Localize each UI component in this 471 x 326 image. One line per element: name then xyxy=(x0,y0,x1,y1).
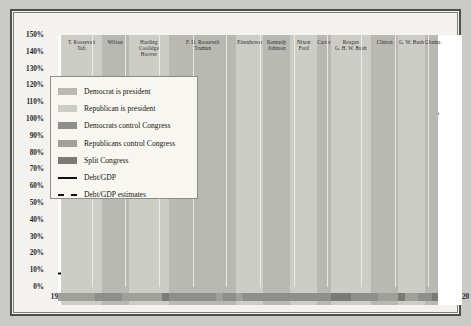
legend-color-swatch xyxy=(58,140,77,147)
y-axis-tick-label: 150% xyxy=(10,31,44,39)
legend-item: Republican is president xyxy=(58,100,190,117)
y-axis-tick-label: 50% xyxy=(10,199,44,207)
congress-control-segment xyxy=(95,293,122,301)
legend-item-label: Republicans control Congress xyxy=(84,139,175,148)
y-axis-tick-label: 20% xyxy=(10,249,44,257)
chart-inner-frame: 0%10%20%30%40%50%60%70%80%90%100%110%120… xyxy=(13,12,458,313)
president-band xyxy=(398,35,425,305)
congress-control-segment xyxy=(169,293,216,301)
president-band-label: Carter xyxy=(317,39,330,45)
congress-control-segment xyxy=(243,293,331,301)
congress-control-segment xyxy=(223,293,236,301)
y-axis-tick-label: 100% xyxy=(10,115,44,123)
gridline xyxy=(395,35,396,287)
y-axis-tick-label: 90% xyxy=(10,132,44,140)
legend-item-label: Democrat is president xyxy=(84,87,151,96)
legend-color-swatch xyxy=(58,88,77,95)
y-axis-tick-label: 110% xyxy=(10,98,44,106)
legend-item: Debt/GDP estimates xyxy=(58,186,190,203)
president-band-label: Reagan G. H. W. Bush xyxy=(331,39,371,51)
president-band-label: T. Roosevelt Taft xyxy=(61,39,101,51)
y-axis-tick-label: 10% xyxy=(10,266,44,274)
y-axis-tick-label: 30% xyxy=(10,233,44,241)
y-axis-tick-label: 60% xyxy=(10,182,44,190)
legend-item-label: Debt/GDP xyxy=(84,173,116,182)
y-axis-tick-label: 40% xyxy=(10,216,44,224)
y-axis-tick-label: 0% xyxy=(10,283,44,291)
congress-control-segment xyxy=(405,293,418,301)
chart-figure: 0%10%20%30%40%50%60%70%80%90%100%110%120… xyxy=(0,0,471,326)
gridline xyxy=(226,35,227,287)
president-band-label: Kennedy Johnson xyxy=(263,39,290,51)
gridline xyxy=(260,35,261,287)
legend-item: Democrats control Congress xyxy=(58,117,190,134)
gridline xyxy=(361,35,362,287)
gridline xyxy=(294,35,295,287)
congress-control-segment xyxy=(351,293,378,301)
president-band xyxy=(263,35,290,305)
legend-item: Democrat is president xyxy=(58,83,190,100)
legend-item: Debt/GDP xyxy=(58,169,190,186)
president-band-label: G. W. Bush xyxy=(398,39,425,45)
legend-item-label: Split Congress xyxy=(84,156,129,165)
congress-control-segment xyxy=(58,293,95,301)
legend-color-swatch xyxy=(58,105,77,112)
legend-item-label: Democrats control Congress xyxy=(84,121,170,130)
legend-color-swatch xyxy=(58,157,77,164)
legend-item: Split Congress xyxy=(58,152,190,169)
y-axis-tick-label: 140% xyxy=(10,48,44,56)
gridline xyxy=(327,35,328,287)
legend-dashed-line-icon xyxy=(58,194,77,196)
legend-item-label: Debt/GDP estimates xyxy=(84,190,146,199)
president-band xyxy=(425,35,438,305)
congress-control-segment xyxy=(398,293,405,301)
y-axis-tick-label: 80% xyxy=(10,149,44,157)
chart-legend: Democrat is presidentRepublican is presi… xyxy=(50,76,198,199)
congress-control-segment xyxy=(418,293,431,301)
congress-control-segment xyxy=(378,293,398,301)
gridline xyxy=(428,35,429,287)
y-axis-tick-label: 130% xyxy=(10,65,44,73)
congress-control-segment xyxy=(162,293,169,301)
president-band xyxy=(317,35,330,305)
president-band-label: Obama xyxy=(425,39,438,45)
congress-control-segment xyxy=(216,293,223,301)
legend-solid-line-icon xyxy=(58,177,77,179)
y-axis-tick-label: 120% xyxy=(10,81,44,89)
president-band xyxy=(331,35,371,305)
congress-control-segment xyxy=(331,293,351,301)
y-axis-tick-label: 70% xyxy=(10,165,44,173)
congress-control-segment xyxy=(122,293,162,301)
legend-item-label: Republican is president xyxy=(84,104,155,113)
congress-control-segment xyxy=(236,293,243,301)
legend-color-swatch xyxy=(58,122,77,129)
congress-control-segment xyxy=(432,293,439,301)
president-band-label: Harding Coolidge Hoover xyxy=(129,39,169,58)
legend-item: Republicans control Congress xyxy=(58,135,190,152)
